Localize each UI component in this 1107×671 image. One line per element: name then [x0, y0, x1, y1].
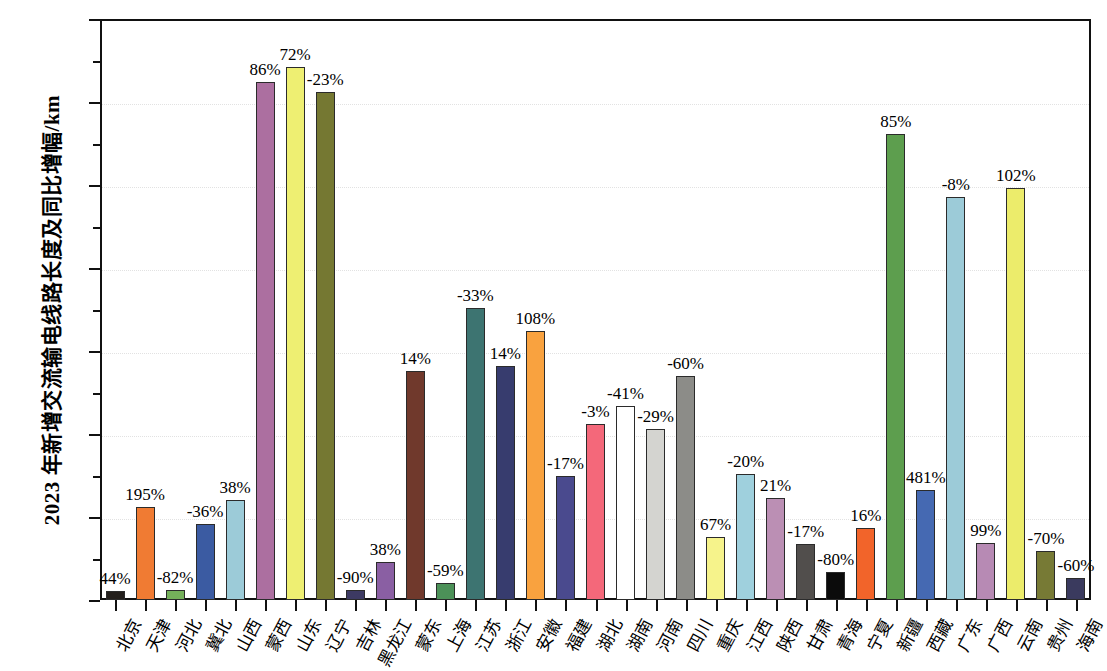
bar-value-label: -59% — [427, 562, 464, 579]
bar[interactable] — [556, 476, 575, 600]
bar-value-label: -60% — [667, 355, 704, 372]
x-axis-tick — [626, 600, 628, 611]
bar-group[interactable]: 72% — [286, 19, 305, 600]
bar-group[interactable]: -60% — [1066, 19, 1085, 600]
bar[interactable] — [826, 572, 845, 600]
bar-group[interactable]: 195% — [136, 19, 155, 600]
bar[interactable] — [1006, 188, 1025, 600]
bar[interactable] — [346, 590, 365, 600]
x-axis-tick — [445, 600, 447, 611]
bar-value-label: -70% — [1028, 530, 1065, 547]
bar-group[interactable]: -70% — [1036, 19, 1055, 600]
bar-value-label: 21% — [760, 477, 791, 494]
bar-group[interactable]: -80% — [826, 19, 845, 600]
bar-group[interactable]: -3% — [586, 19, 605, 600]
bar[interactable] — [916, 490, 935, 600]
bar[interactable] — [166, 590, 185, 600]
bar-group[interactable]: -36% — [196, 19, 215, 600]
bar-group[interactable]: 99% — [976, 19, 995, 600]
bar-value-label: 44% — [99, 570, 130, 587]
bar-group[interactable]: -23% — [316, 19, 335, 600]
bar[interactable] — [856, 528, 875, 600]
bar[interactable] — [1036, 551, 1055, 600]
bar-group[interactable]: 14% — [406, 19, 425, 600]
bar-group[interactable]: -17% — [796, 19, 815, 600]
bar[interactable] — [586, 424, 605, 600]
bar[interactable] — [316, 92, 335, 600]
bar[interactable] — [466, 308, 485, 600]
bar[interactable] — [286, 67, 305, 600]
bar[interactable] — [676, 376, 695, 600]
bar-group[interactable]: -41% — [616, 19, 635, 600]
bar-group[interactable]: -33% — [466, 19, 485, 600]
bar-group[interactable]: -29% — [646, 19, 665, 600]
bar[interactable] — [526, 331, 545, 600]
x-axis-tick — [325, 600, 327, 611]
bar-group[interactable]: 481% — [916, 19, 935, 600]
x-axis-tick — [956, 600, 958, 611]
bar-group[interactable]: 14% — [496, 19, 515, 600]
x-axis-tick — [535, 600, 537, 611]
y-axis-tick — [89, 268, 100, 270]
bar[interactable] — [616, 406, 635, 600]
bar-group[interactable]: 44% — [106, 19, 125, 600]
bar[interactable] — [256, 82, 275, 600]
bar-group[interactable]: -90% — [346, 19, 365, 600]
x-axis-tick — [145, 600, 147, 611]
bar[interactable] — [706, 537, 725, 600]
bar[interactable] — [946, 197, 965, 600]
bar-group[interactable]: -59% — [436, 19, 455, 600]
bar[interactable] — [796, 544, 815, 600]
bar-group[interactable]: 38% — [226, 19, 245, 600]
bar-group[interactable]: -60% — [676, 19, 695, 600]
x-axis-tick — [776, 600, 778, 611]
bar-value-label: 14% — [400, 350, 431, 367]
bar-group[interactable]: -82% — [166, 19, 185, 600]
bar-group[interactable]: 102% — [1006, 19, 1025, 600]
bar-value-label: 195% — [125, 486, 165, 503]
bar-group[interactable]: -17% — [556, 19, 575, 600]
bar[interactable] — [106, 591, 125, 600]
bar[interactable] — [136, 507, 155, 600]
bar-value-label: 72% — [280, 46, 311, 63]
bar[interactable] — [406, 371, 425, 600]
x-axis-tick — [686, 600, 688, 611]
x-axis-tick — [986, 600, 988, 611]
x-axis-tick — [656, 600, 658, 611]
bar-value-label: -41% — [607, 385, 644, 402]
bar-group[interactable]: -20% — [736, 19, 755, 600]
bar-group[interactable]: 67% — [706, 19, 725, 600]
bar-group[interactable]: 21% — [766, 19, 785, 600]
bar[interactable] — [886, 134, 905, 600]
y-axis-tick — [89, 600, 100, 602]
bar[interactable] — [226, 500, 245, 600]
bar[interactable] — [736, 474, 755, 600]
y-axis-minor-tick — [93, 393, 100, 395]
x-axis-tick — [896, 600, 898, 611]
bar[interactable] — [376, 562, 395, 600]
bar-value-label: 85% — [880, 113, 911, 130]
y-axis-tick — [89, 102, 100, 104]
bar-group[interactable]: 85% — [886, 19, 905, 600]
bar-group[interactable]: 108% — [526, 19, 545, 600]
bar[interactable] — [196, 524, 215, 600]
bar[interactable] — [1066, 578, 1085, 600]
bar-group[interactable]: 16% — [856, 19, 875, 600]
x-axis-tick — [926, 600, 928, 611]
bar-value-label: -33% — [457, 287, 494, 304]
y-axis-tick — [89, 19, 100, 21]
bar[interactable] — [976, 543, 995, 600]
bar-group[interactable]: 86% — [256, 19, 275, 600]
bar[interactable] — [766, 498, 785, 600]
x-axis-tick — [385, 600, 387, 611]
bar-group[interactable]: -8% — [946, 19, 965, 600]
y-axis-minor-tick — [93, 310, 100, 312]
bar-group[interactable]: 38% — [376, 19, 395, 600]
bar-value-label: -60% — [1058, 557, 1095, 574]
bar-value-label: 86% — [250, 61, 281, 78]
x-axis-tick — [115, 600, 117, 611]
bar[interactable] — [436, 583, 455, 600]
bar[interactable] — [646, 429, 665, 600]
bar[interactable] — [496, 366, 515, 600]
